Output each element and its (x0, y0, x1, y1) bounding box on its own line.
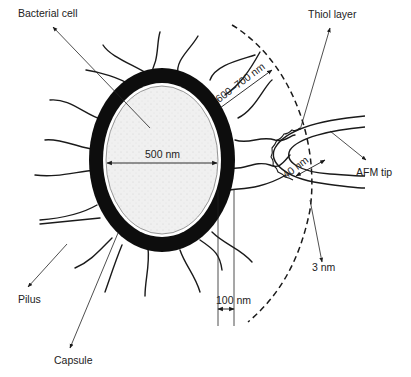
pilus-label: Pilus (18, 293, 41, 305)
bacterial-cell-label: Bacterial cell (18, 7, 78, 19)
cytoplasm (106, 86, 218, 234)
thiol-thickness-leader (310, 200, 322, 262)
thiol-layer-leader (300, 28, 330, 130)
capsule-leader (70, 233, 118, 348)
capsule-thickness-label: 100 nm (216, 294, 251, 306)
thiol-layer-label: Thiol layer (308, 8, 357, 20)
afm-tip-leader (330, 131, 366, 160)
capsule-label: Capsule (54, 354, 93, 366)
cell-width-label: 500 nm (145, 148, 180, 160)
pilus-leader (28, 244, 67, 287)
afm-tip-label: AFM tip (356, 166, 392, 178)
thiol-thickness-label: 3 nm (312, 261, 336, 273)
bacterial-afm-diagram: 500 nm Bacterial cell 600–700 nm Thiol l… (0, 0, 411, 377)
